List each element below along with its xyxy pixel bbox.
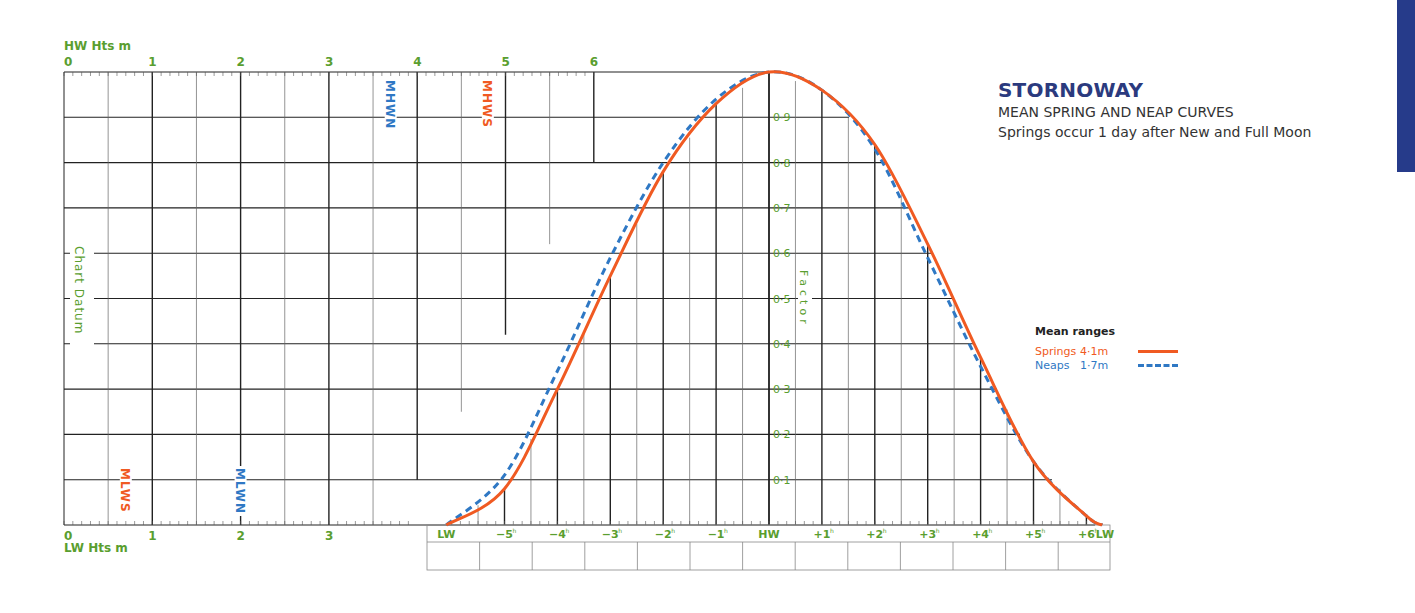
dashed-line-swatch-icon [1138, 364, 1178, 367]
svg-text:0: 0 [64, 55, 72, 69]
svg-text:2: 2 [237, 55, 245, 69]
svg-text:MHWN: MHWN [383, 80, 397, 129]
svg-text:2: 2 [237, 529, 245, 543]
svg-text:MHWS: MHWS [480, 80, 494, 128]
title-block: STORNOWAY MEAN SPRING AND NEAP CURVES Sp… [998, 78, 1311, 142]
svg-text:LW: LW [437, 528, 455, 541]
svg-text:+6: +6 [1078, 528, 1095, 541]
svg-text:h: h [830, 527, 834, 534]
svg-text:+3: +3 [919, 528, 936, 541]
legend-title: Mean ranges [1035, 325, 1178, 338]
svg-text:0·4: 0·4 [773, 338, 791, 351]
svg-text:6: 6 [590, 55, 598, 69]
svg-text:h: h [724, 527, 728, 534]
svg-text:Chart Datum: Chart Datum [72, 246, 86, 334]
svg-text:LW Hts m: LW Hts m [64, 541, 128, 555]
svg-text:0·8: 0·8 [773, 157, 791, 170]
spring-note: Springs occur 1 day after New and Full M… [998, 122, 1311, 142]
svg-text:−4: −4 [549, 528, 566, 541]
svg-text:h: h [513, 527, 517, 534]
svg-text:h: h [618, 527, 622, 534]
svg-text:0·1: 0·1 [773, 474, 791, 487]
grid [64, 72, 1110, 570]
svg-text:h: h [671, 527, 675, 534]
svg-text:h: h [936, 527, 940, 534]
svg-text:h: h [989, 527, 993, 534]
svg-text:HW: HW [758, 528, 779, 541]
svg-text:0·7: 0·7 [773, 202, 791, 215]
svg-text:4: 4 [413, 55, 421, 69]
svg-text:MLWS: MLWS [118, 468, 132, 513]
subtitle: MEAN SPRING AND NEAP CURVES [998, 102, 1311, 122]
svg-text:h: h [565, 527, 569, 534]
svg-text:−2: −2 [655, 528, 672, 541]
legend: Mean ranges Springs 4·1m Neaps 1·7m [1035, 325, 1178, 372]
svg-text:3: 3 [325, 529, 333, 543]
svg-text:h: h [1042, 527, 1046, 534]
svg-text:0·6: 0·6 [773, 247, 791, 260]
svg-text:5: 5 [502, 55, 510, 69]
svg-text:+2: +2 [866, 528, 883, 541]
svg-text:MLWN: MLWN [233, 468, 247, 514]
svg-text:LW: LW [1096, 528, 1114, 541]
svg-text:0·3: 0·3 [773, 383, 791, 396]
legend-neaps: Neaps 1·7m [1035, 358, 1178, 372]
solid-line-swatch-icon [1138, 350, 1178, 353]
legend-springs-label: Springs [1035, 345, 1080, 358]
svg-text:+5: +5 [1025, 528, 1042, 541]
svg-text:+1: +1 [813, 528, 830, 541]
svg-text:HW Hts m: HW Hts m [64, 39, 131, 53]
svg-text:0·2: 0·2 [773, 428, 791, 441]
svg-text:+4: +4 [972, 528, 989, 541]
page-title: STORNOWAY [998, 78, 1311, 102]
svg-text:0·9: 0·9 [773, 111, 791, 124]
legend-springs-value: 4·1m [1080, 345, 1138, 358]
svg-text:3: 3 [325, 55, 333, 69]
svg-text:Factor: Factor [797, 270, 810, 328]
svg-text:1: 1 [148, 55, 156, 69]
svg-text:0·5: 0·5 [773, 293, 791, 306]
svg-text:h: h [883, 527, 887, 534]
legend-springs: Springs 4·1m [1035, 344, 1178, 358]
legend-neaps-value: 1·7m [1080, 359, 1138, 372]
legend-neaps-label: Neaps [1035, 359, 1080, 372]
svg-text:−3: −3 [602, 528, 619, 541]
axis-labels: HW Hts m01234560123LW Hts m0·10·20·30·40… [64, 39, 1114, 555]
svg-text:−5: −5 [496, 528, 513, 541]
svg-text:−1: −1 [708, 528, 725, 541]
svg-text:1: 1 [148, 529, 156, 543]
